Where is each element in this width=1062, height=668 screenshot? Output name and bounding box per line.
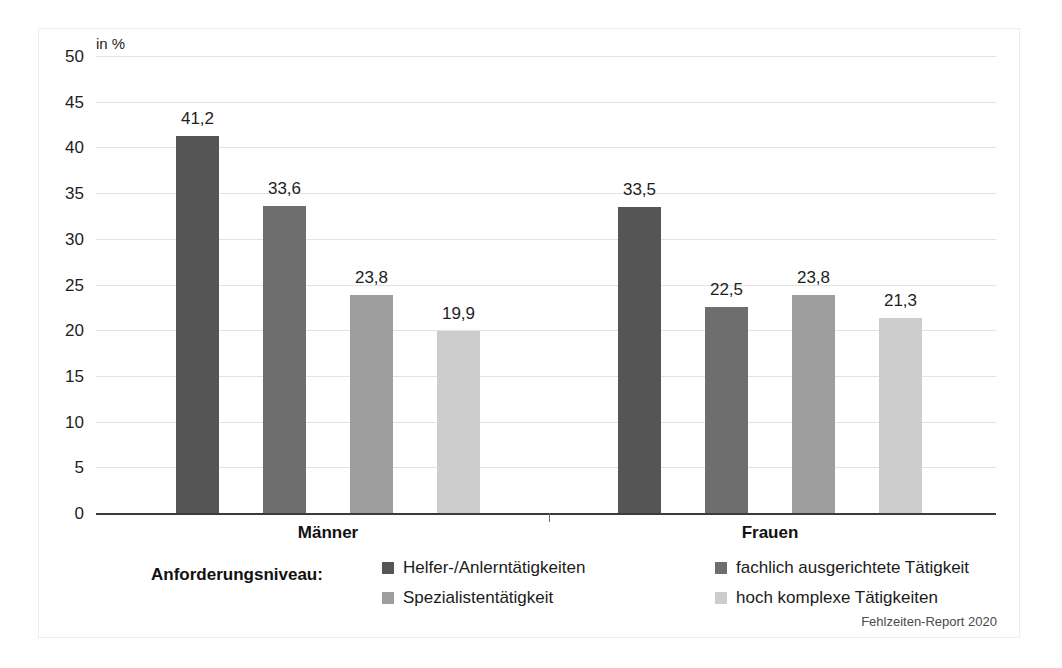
y-axis-tick-label: 35	[65, 185, 84, 202]
legend-item-label: fachlich ausgerichtete Tätigkeit	[736, 559, 969, 576]
x-axis-group-label: Männer	[298, 523, 358, 543]
legend-swatch-icon	[715, 592, 727, 604]
bar-value-label: 41,2	[158, 110, 238, 127]
gridline	[96, 102, 996, 103]
bar	[705, 307, 748, 513]
y-axis-tick-label: 0	[75, 505, 84, 522]
legend-item[interactable]: hoch komplexe Tätigkeiten	[715, 589, 938, 606]
y-axis-tick-label: 25	[65, 276, 84, 293]
bar	[879, 318, 922, 513]
legend-item-label: Spezialistentätigkeit	[403, 589, 553, 606]
chart-legend: Anforderungsniveau: Helfer-/Anlerntätigk…	[39, 547, 1021, 609]
legend-item-label: Helfer-/Anlerntätigkeiten	[403, 559, 585, 576]
legend-swatch-icon	[382, 592, 394, 604]
gridline	[96, 330, 996, 331]
bar	[263, 206, 306, 513]
y-axis-tick-label: 30	[65, 230, 84, 247]
y-axis-tick-label: 10	[65, 413, 84, 430]
gridline	[96, 285, 996, 286]
legend-item[interactable]: Spezialistentätigkeit	[382, 589, 553, 606]
bar-value-label: 22,5	[687, 281, 767, 298]
bar-value-label: 33,5	[600, 181, 680, 198]
bar-value-label: 21,3	[861, 292, 941, 309]
bar-value-label: 19,9	[419, 305, 499, 322]
gridline	[96, 193, 996, 194]
gridline	[96, 239, 996, 240]
gridline	[96, 56, 996, 57]
bar	[437, 331, 480, 513]
x-axis-line	[96, 513, 996, 515]
legend-title: Anforderungsniveau:	[151, 565, 323, 585]
gridline	[96, 147, 996, 148]
gridline	[96, 467, 996, 468]
bar-value-label: 23,8	[332, 269, 412, 286]
gridline	[96, 376, 996, 377]
y-axis-unit-label: in %	[96, 35, 125, 52]
x-axis-group-label: Frauen	[742, 523, 799, 543]
legend-item[interactable]: fachlich ausgerichtete Tätigkeit	[715, 559, 969, 576]
legend-item[interactable]: Helfer-/Anlerntätigkeiten	[382, 559, 585, 576]
bar	[618, 207, 661, 513]
y-axis-tick-label: 40	[65, 139, 84, 156]
bar-value-label: 23,8	[774, 269, 854, 286]
bar	[176, 136, 219, 513]
chart-figure: in % 50454035302520151050 41,233,623,819…	[38, 28, 1020, 638]
bar	[350, 295, 393, 513]
legend-item-label: hoch komplexe Tätigkeiten	[736, 589, 938, 606]
bar	[792, 295, 835, 513]
x-axis-group-separator-tick	[549, 513, 550, 522]
y-axis-tick-label: 50	[65, 48, 84, 65]
y-axis-tick-label: 45	[65, 93, 84, 110]
legend-swatch-icon	[715, 562, 727, 574]
source-note: Fehlzeiten-Report 2020	[861, 614, 997, 629]
y-axis-tick-label: 5	[75, 459, 84, 476]
plot-area: 50454035302520151050 41,233,623,819,933,…	[96, 56, 996, 513]
gridline	[96, 422, 996, 423]
y-axis-tick-label: 15	[65, 367, 84, 384]
legend-swatch-icon	[382, 562, 394, 574]
bar-value-label: 33,6	[245, 180, 325, 197]
y-axis-tick-label: 20	[65, 322, 84, 339]
